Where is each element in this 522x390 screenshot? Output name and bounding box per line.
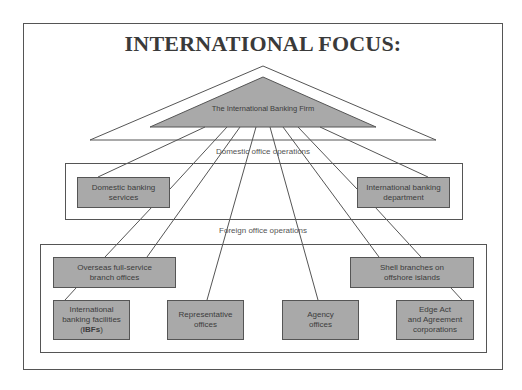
box-text: department [366, 193, 440, 203]
box-text: corporations [408, 325, 462, 335]
box-text: Domestic banking [92, 183, 156, 193]
box-text: Agency [307, 310, 334, 320]
domestic-section-label: Domestic office operations [163, 147, 363, 156]
box-text: (IBFs) [62, 325, 121, 335]
box-text: branch offices [77, 273, 152, 283]
box-text: offices [307, 320, 334, 330]
edge-act-corporations-box: Edge Act and Agreement corporations [396, 300, 474, 340]
agency-offices-box: Agency offices [282, 300, 359, 340]
box-text: Shell branches on [380, 263, 444, 273]
shell-branches-box: Shell branches on offshore islands [350, 257, 474, 288]
box-text: services [92, 193, 156, 203]
domestic-banking-services-box: Domestic banking services [77, 177, 170, 208]
firm-label: The International Banking Firm [190, 104, 336, 113]
box-text: Edge Act [408, 305, 462, 315]
box-text: and Agreement [408, 315, 462, 325]
box-text: banking facilities [62, 315, 121, 325]
box-text: Representative [179, 310, 233, 320]
representative-offices-box: Representative offices [167, 300, 244, 340]
ibf-box: International banking facilities (IBFs) [53, 300, 130, 340]
box-text: Overseas full-service [77, 263, 152, 273]
ibf-abbreviation: IBFs [83, 325, 100, 334]
foreign-section-label: Foreign office operations [163, 226, 363, 235]
overseas-branch-offices-box: Overseas full-service branch offices [53, 257, 176, 288]
box-text: International banking [366, 183, 440, 193]
box-text: offshore islands [380, 273, 444, 283]
box-text: International [62, 305, 121, 315]
box-text: offices [179, 320, 233, 330]
international-banking-department-box: International banking department [357, 177, 450, 208]
